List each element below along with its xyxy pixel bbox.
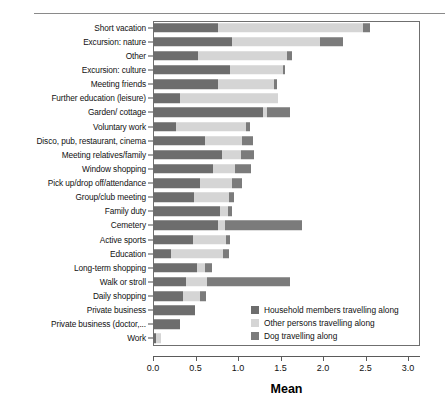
bar-segment	[218, 79, 274, 89]
bar-row: Excursion: nature	[0, 35, 445, 48]
bar-row: Other	[0, 49, 445, 62]
category-label: Education	[110, 249, 146, 259]
legend-swatch-icon	[251, 332, 259, 340]
category-label: Cemetery	[111, 220, 146, 230]
category-label: Family duty	[105, 206, 146, 216]
x-axis-tick	[323, 356, 324, 361]
bar-segment	[153, 122, 176, 132]
bar-segment	[363, 23, 370, 33]
category-label: Work	[127, 333, 146, 343]
bar-segment	[197, 263, 205, 273]
category-label: Voluntary work	[93, 122, 146, 132]
category-label: Disco, pub, restaurant, cinema	[36, 136, 146, 146]
bar-segment	[153, 164, 213, 174]
category-label: Active sports	[100, 235, 146, 245]
category-label: Meeting friends	[91, 79, 146, 89]
stacked-bar	[153, 334, 161, 344]
legend-item: Household members travelling along	[251, 305, 399, 315]
category-label: Window shopping	[82, 164, 146, 174]
stacked-bar	[153, 136, 253, 146]
x-axis-tick-label: 3.0	[402, 363, 415, 373]
bar-segment	[223, 249, 229, 259]
legend-label: Dog travelling along	[264, 331, 337, 341]
bar-segment	[153, 108, 263, 118]
stacked-bar	[153, 249, 229, 259]
x-axis-title: Mean	[153, 382, 420, 396]
stacked-bar	[153, 221, 302, 231]
bar-segment	[186, 277, 206, 287]
x-axis-tick-label: 1.0	[232, 363, 245, 373]
x-axis-line	[153, 356, 420, 357]
stacked-bar	[153, 192, 234, 202]
category-label: Excursion: culture	[82, 65, 146, 75]
stacked-bar	[153, 150, 254, 160]
x-axis-tick-label: 1.5	[274, 363, 287, 373]
legend-item: Other persons travelling along	[251, 318, 399, 328]
category-label: Walk or stroll	[100, 277, 146, 287]
stacked-bar	[153, 305, 195, 315]
bar-segment	[198, 51, 287, 61]
bar-segment	[218, 221, 226, 231]
bar-segment	[242, 136, 253, 146]
stacked-bar	[153, 263, 212, 273]
x-axis-tick-label: 2.0	[317, 363, 330, 373]
x-axis-tick-label: 0.0	[147, 363, 160, 373]
bar-segment	[207, 277, 290, 287]
bar-segment	[153, 207, 220, 217]
chart-legend: Household members travelling alongOther …	[251, 305, 399, 341]
bar-segment	[153, 291, 183, 301]
category-label: Group/club meeting	[75, 192, 146, 202]
bar-row: Education	[0, 247, 445, 260]
bar-row: Meeting friends	[0, 78, 445, 91]
bar-row: Walk or stroll	[0, 275, 445, 288]
header-rule	[34, 13, 445, 14]
stacked-bar	[153, 65, 285, 75]
category-label: Other	[126, 51, 146, 61]
bar-segment	[200, 291, 206, 301]
bar-segment	[153, 79, 218, 89]
bar-row: Long-term shopping	[0, 261, 445, 274]
bar-segment	[226, 235, 230, 245]
bar-segment	[200, 178, 232, 188]
bar-segment	[222, 150, 242, 160]
x-axis-tick	[196, 356, 197, 361]
bar-segment	[153, 150, 222, 160]
stacked-bar	[153, 164, 251, 174]
bar-segment	[220, 207, 228, 217]
x-axis-tick	[281, 356, 282, 361]
bar-segment	[232, 37, 320, 47]
x-axis-tick	[366, 356, 367, 361]
bar-segment	[274, 79, 277, 89]
stacked-bar	[153, 51, 292, 61]
bar-segment	[153, 37, 232, 47]
bar-segment	[205, 263, 212, 273]
bar-segment	[171, 249, 223, 259]
stacked-bar	[153, 93, 278, 103]
bar-segment	[153, 23, 218, 33]
bar-segment	[153, 305, 195, 315]
category-label: Private business (doctor,...	[51, 319, 146, 329]
bar-segment	[320, 37, 343, 47]
legend-swatch-icon	[251, 319, 259, 327]
bar-segment	[153, 51, 198, 61]
bar-row: Voluntary work	[0, 120, 445, 133]
bar-segment	[225, 221, 302, 231]
bar-row: Cemetery	[0, 219, 445, 232]
bar-row: Further education (leisure)	[0, 92, 445, 105]
x-axis-tick-label: 0.5	[189, 363, 202, 373]
bar-segment	[194, 192, 230, 202]
stacked-bar	[153, 320, 180, 330]
bar-segment	[229, 192, 233, 202]
bar-segment	[230, 65, 283, 75]
bar-segment	[287, 51, 292, 61]
bar-row: Active sports	[0, 233, 445, 246]
bar-segment	[218, 23, 363, 33]
bar-segment	[180, 93, 278, 103]
bar-segment	[153, 178, 200, 188]
bar-row: Excursion: culture	[0, 63, 445, 76]
bar-segment	[153, 65, 230, 75]
category-label: Excursion: nature	[83, 37, 146, 47]
stacked-bar	[153, 207, 232, 217]
bar-segment	[235, 164, 250, 174]
stacked-bar	[153, 291, 206, 301]
